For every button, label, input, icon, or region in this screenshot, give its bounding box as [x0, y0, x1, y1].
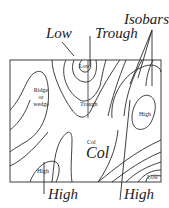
label-low-top: Low — [79, 63, 90, 69]
label-ridge: Ridge or wedge — [28, 87, 54, 108]
isobar-ridge — [10, 71, 49, 152]
label-high-right: High — [139, 111, 151, 117]
label-col-big: Col — [86, 145, 109, 161]
isobars-leader-2 — [138, 30, 152, 78]
callout-low: Low — [46, 26, 72, 41]
callout-high-right: High — [124, 187, 154, 202]
isobar-diagram: Low Trough Isobars High High Low Ridge o… — [0, 0, 169, 208]
label-high-bottom: High — [37, 168, 49, 174]
callout-isobars: Isobars — [124, 12, 169, 27]
low-callout-leader — [62, 42, 74, 56]
callout-trough: Trough — [95, 26, 138, 41]
label-trough: Trough — [80, 101, 97, 107]
high-right-leader — [120, 100, 130, 200]
label-low-bottom-right: Low — [147, 174, 158, 180]
callout-high-left: High — [48, 187, 78, 202]
